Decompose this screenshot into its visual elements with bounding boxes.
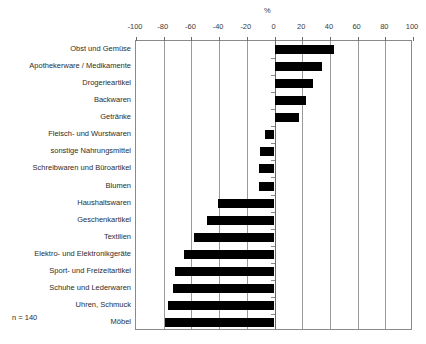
gridline xyxy=(330,41,331,329)
x-tick-label: -80 xyxy=(157,22,168,31)
category-tick-mark xyxy=(271,160,275,161)
category-label: Blumen xyxy=(0,181,131,190)
horizontal-bar-chart: % -100-80-60-40-20020406080100 Obst und … xyxy=(0,0,426,344)
gridline xyxy=(164,41,165,329)
category-label: Fleisch- und Wurstwaren xyxy=(0,129,131,138)
bar xyxy=(275,79,314,88)
x-tick-label: -100 xyxy=(127,22,142,31)
x-tick-label: 20 xyxy=(297,22,305,31)
category-label: Geschenkartikel xyxy=(0,215,131,224)
bar xyxy=(259,164,275,173)
x-tick-label: 100 xyxy=(406,22,419,31)
category-label: Haushaltswaren xyxy=(0,198,131,207)
x-tick-label: 40 xyxy=(325,22,333,31)
category-tick-mark xyxy=(271,58,275,59)
x-tick-mark xyxy=(358,37,359,41)
x-tick-mark xyxy=(247,37,248,41)
category-tick-mark xyxy=(271,177,275,178)
category-label: Textilien xyxy=(0,232,131,241)
category-tick-mark xyxy=(271,195,275,196)
category-tick-mark xyxy=(271,212,275,213)
x-tick-label: 60 xyxy=(352,22,360,31)
gridline xyxy=(358,41,359,329)
category-label: Schreibwaren und Büroartikel xyxy=(0,163,131,172)
bar xyxy=(184,250,274,259)
category-label: Getränke xyxy=(0,112,131,121)
category-label: sonstige Nahrungsmittel xyxy=(0,146,131,155)
category-tick-mark xyxy=(271,263,275,264)
bar xyxy=(218,199,275,208)
plot-area xyxy=(135,40,412,330)
category-label: Apothekerware / Medikamente xyxy=(0,61,131,70)
gridline xyxy=(385,41,386,329)
category-label: Uhren, Schmuck xyxy=(0,300,131,309)
bar xyxy=(165,318,274,327)
x-tick-mark xyxy=(136,37,137,41)
category-label: Obst und Gemüse xyxy=(0,44,131,53)
x-tick-mark xyxy=(413,37,414,41)
category-label: Backwaren xyxy=(0,95,131,104)
category-label: Schuhe und Lederwaren xyxy=(0,283,131,292)
bar xyxy=(275,113,299,122)
category-tick-mark xyxy=(271,229,275,230)
x-tick-label: 0 xyxy=(271,22,275,31)
x-tick-label: -20 xyxy=(240,22,251,31)
category-tick-mark xyxy=(271,246,275,247)
category-tick-mark xyxy=(271,314,275,315)
bar xyxy=(275,45,335,54)
category-label: Sport- und Freizeitartikel xyxy=(0,266,131,275)
x-axis-unit-label: % xyxy=(264,6,271,15)
category-tick-mark xyxy=(271,75,275,76)
x-tick-label: 80 xyxy=(380,22,388,31)
bar xyxy=(194,233,274,242)
bar xyxy=(265,130,274,139)
x-tick-mark xyxy=(219,37,220,41)
x-axis-tick-labels: -100-80-60-40-20020406080100 xyxy=(0,22,426,34)
sample-size-note: n = 140 xyxy=(12,313,37,322)
bar xyxy=(175,267,275,276)
x-tick-mark xyxy=(330,37,331,41)
y-axis-category-labels: Obst und GemüseApothekerware / Medikamen… xyxy=(0,40,131,330)
x-tick-mark xyxy=(164,37,165,41)
x-tick-mark xyxy=(191,37,192,41)
category-label: Elektro- und Elektronikgeräte xyxy=(0,249,131,258)
category-tick-mark xyxy=(271,126,275,127)
x-tick-mark xyxy=(302,37,303,41)
bar xyxy=(207,216,275,225)
category-tick-mark xyxy=(271,109,275,110)
bar xyxy=(260,147,275,156)
bar xyxy=(259,182,275,191)
x-tick-label: -40 xyxy=(213,22,224,31)
category-tick-mark xyxy=(271,280,275,281)
bar xyxy=(173,284,275,293)
category-tick-mark xyxy=(271,143,275,144)
x-tick-label: -60 xyxy=(185,22,196,31)
bar xyxy=(168,301,275,310)
bar xyxy=(275,62,322,71)
x-tick-mark xyxy=(275,37,276,41)
category-tick-mark xyxy=(271,297,275,298)
category-tick-mark xyxy=(271,92,275,93)
bar xyxy=(275,96,307,105)
x-tick-mark xyxy=(385,37,386,41)
category-label: Drogerieartikel xyxy=(0,78,131,87)
